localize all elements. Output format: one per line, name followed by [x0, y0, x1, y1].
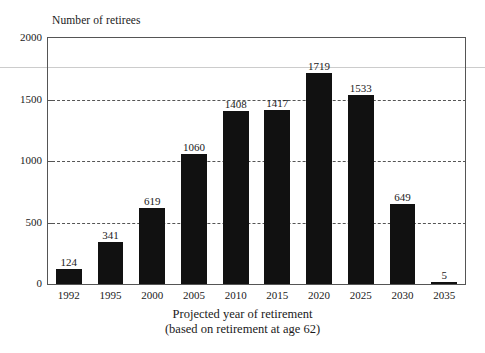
- x-tick-label-2035: 2035: [421, 289, 467, 301]
- bar-value-label: 5: [415, 269, 473, 281]
- bar-group: 619: [139, 38, 165, 284]
- y-tick-label-2000: 2000: [2, 31, 42, 43]
- x-axis-title-main: Projected year of retirement: [0, 307, 485, 322]
- bar-group: 5: [431, 38, 457, 284]
- x-axis-title-sub: (based on retirement at age 62): [0, 322, 485, 337]
- y-tick-label-0: 0: [2, 277, 42, 289]
- bar[interactable]: [139, 208, 165, 284]
- bar[interactable]: [348, 95, 374, 284]
- x-tick-label-2005: 2005: [171, 289, 217, 301]
- bar-group: 124: [56, 38, 82, 284]
- bar-chart: Number of retirees 0500100015002000 1243…: [0, 0, 485, 353]
- x-tick-label-2010: 2010: [213, 289, 259, 301]
- bar-group: 1060: [181, 38, 207, 284]
- x-tick-label-2030: 2030: [379, 289, 425, 301]
- y-tick-label-1500: 1500: [2, 93, 42, 105]
- y-tick-label-1000: 1000: [2, 154, 42, 166]
- bar[interactable]: [306, 73, 332, 284]
- bar[interactable]: [98, 242, 124, 284]
- bar-value-label: 341: [82, 229, 140, 241]
- bar[interactable]: [223, 111, 249, 284]
- bar-group: 649: [390, 38, 416, 284]
- x-axis-title: Projected year of retirement (based on r…: [0, 307, 485, 337]
- bar-value-label: 649: [374, 191, 432, 203]
- bar[interactable]: [390, 204, 416, 284]
- x-tick-label-2025: 2025: [338, 289, 384, 301]
- x-tick-label-1992: 1992: [46, 289, 92, 301]
- bar-value-label: 1060: [165, 141, 223, 153]
- bar[interactable]: [56, 269, 82, 284]
- bar[interactable]: [431, 282, 457, 285]
- bars-group: 124341619106014081417171915336495: [48, 38, 465, 284]
- bar-value-label: 1719: [290, 60, 348, 72]
- x-tick-label-2000: 2000: [129, 289, 175, 301]
- bar-group: 1533: [348, 38, 374, 284]
- bar[interactable]: [181, 154, 207, 284]
- bar-group: 1417: [264, 38, 290, 284]
- bar-value-label: 619: [123, 195, 181, 207]
- bar-group: 1408: [223, 38, 249, 284]
- y-tick-label-500: 500: [2, 216, 42, 228]
- x-tick-label-2020: 2020: [296, 289, 342, 301]
- x-tick-label-1995: 1995: [88, 289, 134, 301]
- y-axis-title: Number of retirees: [52, 14, 141, 26]
- bar-value-label: 124: [40, 256, 98, 268]
- bar[interactable]: [264, 110, 290, 284]
- bar-value-label: 1533: [332, 82, 390, 94]
- bar-group: 341: [98, 38, 124, 284]
- x-tick-label-2015: 2015: [254, 289, 300, 301]
- bar-group: 1719: [306, 38, 332, 284]
- bar-value-label: 1417: [248, 97, 306, 109]
